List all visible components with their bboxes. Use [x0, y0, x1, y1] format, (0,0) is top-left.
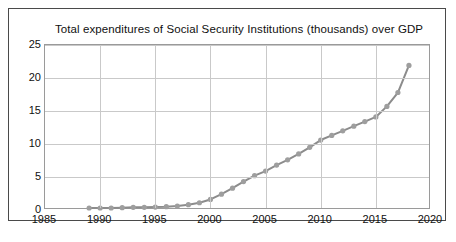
- gridline-vertical: [210, 45, 211, 208]
- data-point-marker: [362, 119, 367, 124]
- gridline-vertical: [376, 45, 377, 208]
- data-point-marker: [274, 163, 279, 168]
- x-tick-label: 1995: [132, 213, 176, 225]
- data-point-marker: [351, 124, 356, 129]
- data-point-marker: [175, 203, 180, 208]
- data-point-marker: [219, 192, 224, 197]
- y-axis-tick-labels: 0510152025: [9, 44, 41, 209]
- gridline-vertical: [100, 45, 101, 208]
- y-tick-label: 20: [13, 71, 41, 83]
- data-point-marker: [241, 179, 246, 184]
- x-tick-label: 1990: [77, 213, 121, 225]
- chart-screenshot: Total expenditures of Social Security In…: [0, 0, 456, 242]
- data-point-marker: [384, 104, 389, 109]
- gridline-horizontal: [45, 177, 429, 178]
- data-point-marker: [285, 157, 290, 162]
- y-tick-label: 5: [13, 170, 41, 182]
- x-tick-label: 2020: [408, 213, 452, 225]
- plot-area: [44, 44, 430, 209]
- x-axis-tick-labels: 19851990199520002005201020152020: [44, 213, 430, 229]
- x-tick-label: 2015: [353, 213, 397, 225]
- data-point-marker: [186, 202, 191, 207]
- data-point-marker: [307, 145, 312, 150]
- data-point-marker: [109, 205, 114, 210]
- data-point-marker: [230, 186, 235, 191]
- figure-frame: Total expenditures of Social Security In…: [8, 8, 446, 221]
- y-tick-label: 15: [13, 104, 41, 116]
- data-point-marker: [340, 128, 345, 133]
- data-point-marker: [87, 205, 92, 210]
- x-tick-label: 2000: [187, 213, 231, 225]
- chart-title: Total expenditures of Social Security In…: [39, 23, 439, 35]
- gridline-vertical: [321, 45, 322, 208]
- data-point-marker: [197, 200, 202, 205]
- x-tick-label: 1985: [22, 213, 66, 225]
- y-tick-label: 10: [13, 137, 41, 149]
- gridline-horizontal: [45, 144, 429, 145]
- y-tick-label: 25: [13, 38, 41, 50]
- data-point-marker: [131, 205, 136, 210]
- series-line: [89, 65, 409, 208]
- gridline-horizontal: [45, 111, 429, 112]
- data-series-layer: [45, 45, 431, 210]
- gridline-vertical: [155, 45, 156, 208]
- data-point-marker: [406, 63, 411, 68]
- data-point-marker: [395, 90, 400, 95]
- data-point-marker: [142, 205, 147, 210]
- gridline-vertical: [266, 45, 267, 208]
- x-tick-label: 2010: [298, 213, 342, 225]
- data-point-marker: [329, 133, 334, 138]
- data-point-marker: [164, 204, 169, 209]
- data-point-marker: [120, 205, 125, 210]
- x-tick-label: 2005: [243, 213, 287, 225]
- data-point-marker: [296, 151, 301, 156]
- gridline-horizontal: [45, 45, 429, 46]
- gridline-horizontal: [45, 78, 429, 79]
